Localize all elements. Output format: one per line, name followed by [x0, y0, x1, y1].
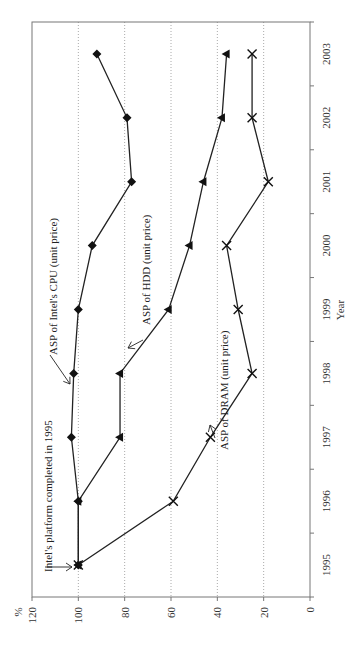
value-tick-label: 120: [26, 607, 38, 624]
diamond-marker: [69, 369, 78, 378]
annotation-text: ASP of Intel's CPU (unit price): [47, 218, 60, 355]
annotations: ASP of Intel's CPU (unit price)ASP of HD…: [42, 214, 231, 572]
series-diamond: [67, 49, 136, 569]
year-tick-label: 1999: [320, 298, 332, 321]
year-tick-label: 1996: [320, 490, 332, 512]
diamond-marker: [67, 433, 76, 442]
year-tick-label: 1997: [320, 426, 332, 449]
year-tick-label: 2001: [320, 171, 332, 193]
x-marker: [264, 177, 273, 186]
triangle-marker: [115, 369, 123, 378]
annotation-text: ASP of HDD (unit price): [140, 214, 153, 325]
value-tick-label: 100: [72, 607, 84, 624]
value-tick-label: 60: [165, 607, 177, 619]
triangle-marker: [164, 305, 172, 314]
value-tick-label: 40: [211, 607, 223, 619]
value-tick-label: 80: [119, 607, 131, 619]
series-line: [78, 54, 226, 565]
x-marker: [248, 369, 257, 378]
annotation-text: Intel's platform completed in 1995: [42, 420, 54, 572]
year-tick-label: 1998: [320, 362, 332, 385]
x-marker: [169, 497, 178, 506]
y-axis-unit-label: %: [12, 607, 24, 616]
arrow-icon: [50, 355, 70, 384]
year-axis-ticks: 199519961997199819992000200120022003: [310, 22, 332, 597]
value-axis-ticks: 020406080100120: [26, 597, 316, 624]
diamond-marker: [88, 241, 97, 250]
triangle-marker: [222, 49, 230, 58]
year-tick-label: 2003: [320, 42, 332, 65]
value-tick-label: 20: [258, 607, 270, 619]
year-tick-label: 1995: [320, 554, 332, 577]
triangle-marker: [115, 433, 123, 442]
diamond-marker: [74, 305, 83, 314]
series-line: [78, 54, 268, 565]
diamond-marker: [127, 177, 136, 186]
data-series: [67, 49, 273, 569]
annotation-text: ASP of DRAM (unit price): [218, 330, 231, 450]
diamond-marker: [122, 113, 131, 122]
x-axis-title: Year: [334, 300, 346, 321]
diamond-marker: [92, 49, 101, 58]
year-tick-label: 2000: [320, 234, 332, 257]
chart-svg: 020406080100120 199519961997199819992000…: [0, 0, 360, 654]
value-tick-label: 0: [304, 607, 316, 613]
series-x: [74, 49, 273, 569]
year-tick-label: 2002: [320, 107, 332, 129]
